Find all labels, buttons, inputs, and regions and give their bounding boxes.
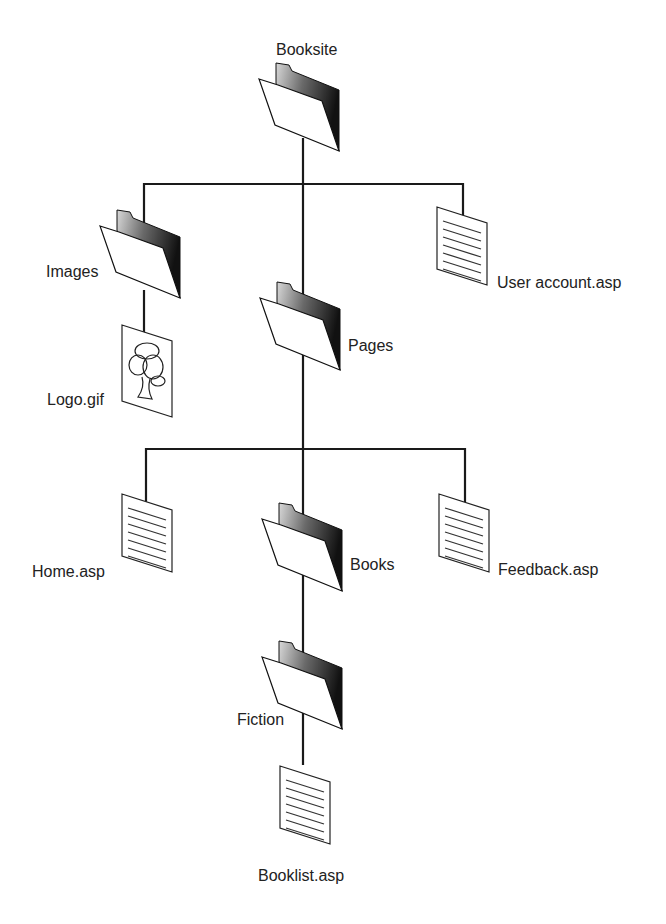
document-icon[interactable]	[122, 494, 172, 572]
document-icon[interactable]	[437, 207, 487, 285]
image-file-icon[interactable]	[122, 325, 172, 417]
folder-icon[interactable]	[260, 282, 340, 370]
document-icon[interactable]	[280, 766, 330, 844]
site-tree-diagram	[0, 0, 666, 924]
node-label-booklist: Booklist.asp	[258, 868, 344, 884]
document-icon[interactable]	[439, 494, 489, 572]
node-label-user-account: User account.asp	[497, 275, 622, 291]
node-label-images: Images	[46, 264, 98, 280]
node-label-feedback: Feedback.asp	[498, 562, 599, 578]
node-label-booksite: Booksite	[276, 42, 337, 58]
folder-icon[interactable]	[100, 210, 180, 298]
folder-icon[interactable]	[259, 63, 339, 151]
node-label-home: Home.asp	[32, 564, 105, 580]
node-label-fiction: Fiction	[237, 712, 284, 728]
node-label-pages: Pages	[348, 338, 393, 354]
node-label-logo: Logo.gif	[47, 392, 104, 408]
node-label-books: Books	[350, 557, 394, 573]
